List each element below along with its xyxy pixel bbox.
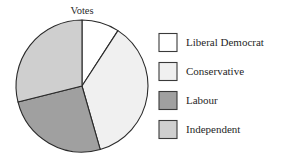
chart-title: Votes — [70, 5, 93, 16]
legend: Liberal Democrat Conservative Labour Ind… — [159, 34, 264, 139]
legend-label: Liberal Democrat — [186, 36, 264, 48]
legend-item-liberal-democrat[interactable]: Liberal Democrat — [159, 34, 264, 52]
legend-label: Labour — [186, 94, 218, 106]
legend-item-independent[interactable]: Independent — [159, 121, 240, 139]
pie-slices — [16, 20, 148, 152]
pie-chart-figure: Votes Liberal Democrat Conservative Labo… — [0, 0, 284, 162]
legend-item-conservative[interactable]: Conservative — [159, 63, 244, 81]
legend-swatch-icon — [159, 92, 177, 110]
legend-label: Independent — [186, 123, 240, 135]
legend-swatch-icon — [159, 34, 177, 52]
legend-swatch-icon — [159, 63, 177, 81]
legend-label: Conservative — [186, 65, 244, 77]
legend-item-labour[interactable]: Labour — [159, 92, 218, 110]
legend-swatch-icon — [159, 121, 177, 139]
